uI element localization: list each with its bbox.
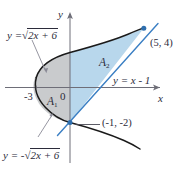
leader-lower-branch [38,113,53,137]
upper-branch-radicand: 2x + 6 [27,28,58,41]
label-lower-branch-equation: y = -√2x + 6 [3,148,60,161]
label-region-a2: A2 [99,57,110,70]
label-y-axis: y [58,9,63,20]
point-marker-neg1-neg2 [68,120,73,125]
label-point-5-4: (5, 4) [150,38,173,49]
area-between-curves-figure: y =√2x + 6 y = -√2x + 6 y = x - 1 (5, 4)… [0,0,181,169]
figure-canvas [0,0,181,169]
region-a2-subscript: 2 [106,62,110,70]
upper-branch-prefix: y = [7,29,22,41]
point-marker-5-4 [141,26,146,31]
region-a1-subscript: 1 [54,101,58,109]
label-origin: 0 [60,91,66,102]
lower-branch-radicand: 2x + 6 [30,148,61,161]
label-x-tick-neg3: -3 [24,92,33,103]
label-point-neg1-neg2: (-1, -2) [102,118,132,129]
label-x-axis: x [158,93,163,104]
region-a1-letter: A [47,95,54,107]
label-line-equation: y = x - 1 [113,75,150,86]
region-a2-letter: A [99,56,106,68]
lower-branch-prefix: y = - [3,149,24,161]
label-upper-branch-equation: y =√2x + 6 [7,28,58,41]
label-region-a1: A1 [47,96,58,109]
